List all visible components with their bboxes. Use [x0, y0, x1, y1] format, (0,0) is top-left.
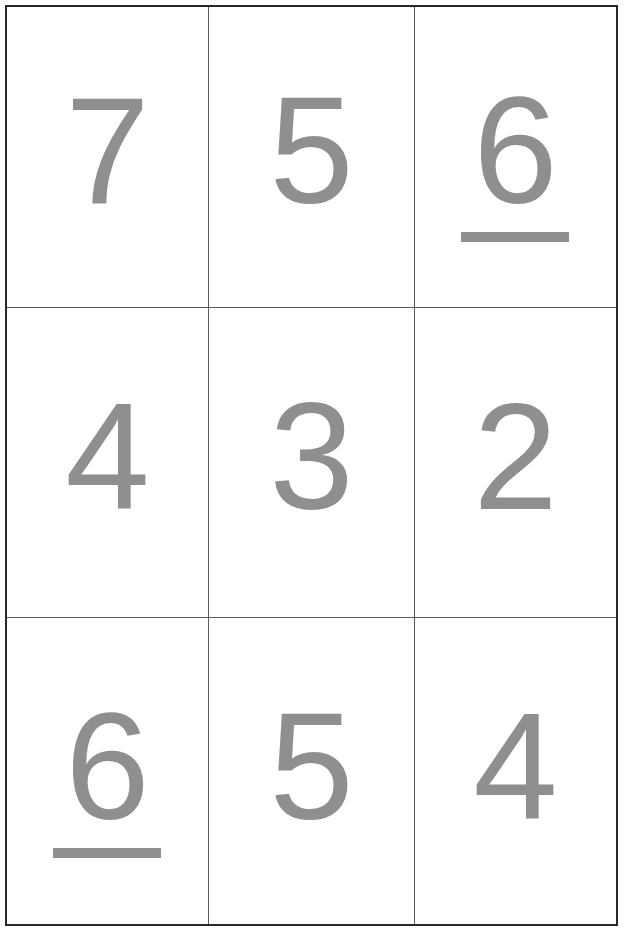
digit-value: 4: [473, 690, 558, 842]
digit-value: 7: [65, 74, 150, 226]
digit-wrapper: 6: [473, 74, 558, 232]
digit-underline: [53, 848, 161, 858]
digit-wrapper: 3: [269, 380, 354, 538]
grid-cell[interactable]: 5: [209, 7, 415, 308]
grid-cell[interactable]: 4: [7, 308, 209, 618]
number-grid: 7 5 6 4 3: [5, 5, 618, 926]
digit-value: 3: [269, 380, 354, 532]
digit-wrapper: 5: [269, 690, 354, 848]
digit-value: 5: [269, 74, 354, 226]
digit-value: 6: [65, 690, 150, 842]
grid-cell[interactable]: 5: [209, 618, 415, 924]
digit-wrapper: 4: [65, 380, 150, 538]
grid-cell[interactable]: 7: [7, 7, 209, 308]
grid-cell[interactable]: 6: [415, 7, 616, 308]
digit-value: 2: [473, 380, 558, 532]
grid-cell[interactable]: 2: [415, 308, 616, 618]
grid-cell[interactable]: 6: [7, 618, 209, 924]
number-grid-sheet: 7 5 6 4 3: [0, 0, 627, 933]
grid-cell[interactable]: 3: [209, 308, 415, 618]
digit-wrapper: 5: [269, 74, 354, 232]
digit-wrapper: 6: [65, 690, 150, 848]
digit-wrapper: 7: [65, 74, 150, 232]
digit-value: 4: [65, 380, 150, 532]
digit-value: 5: [269, 690, 354, 842]
grid-cell[interactable]: 4: [415, 618, 616, 924]
digit-value: 6: [473, 74, 558, 226]
digit-underline: [461, 232, 569, 242]
digit-wrapper: 4: [473, 690, 558, 848]
digit-wrapper: 2: [473, 380, 558, 538]
